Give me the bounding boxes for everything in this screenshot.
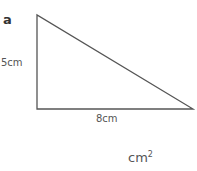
base-label: 8cm <box>96 113 118 124</box>
right-triangle-diagram <box>0 0 197 171</box>
height-label: 5cm <box>1 57 23 68</box>
answer-unit: cm2 <box>128 150 153 165</box>
unit-text: cm <box>128 150 148 165</box>
unit-power: 2 <box>148 150 153 159</box>
